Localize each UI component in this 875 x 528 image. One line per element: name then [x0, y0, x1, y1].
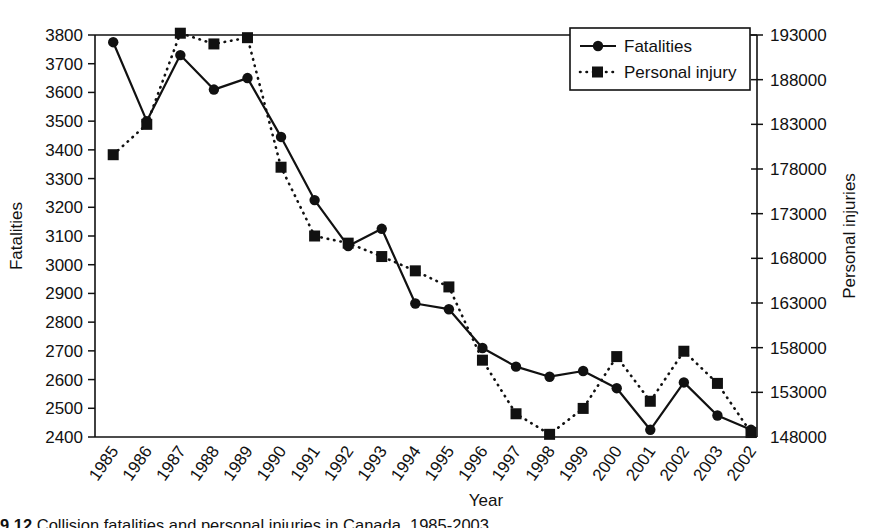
data-point	[376, 251, 387, 262]
x-tick-label: 2002	[656, 442, 693, 484]
data-point	[678, 346, 689, 357]
y-tick-label-left: 3500	[45, 112, 83, 131]
data-point	[443, 281, 454, 292]
y-tick-label-left: 3700	[45, 55, 83, 74]
x-tick-label: 2001	[622, 442, 659, 484]
y-tick-label-right: 168000	[770, 249, 827, 268]
y-tick-label-right: 158000	[770, 339, 827, 358]
y-tick-label-left: 3800	[45, 26, 83, 45]
data-point	[712, 378, 723, 389]
figure-container: 2400250026002700280029003000310032003300…	[0, 0, 875, 528]
data-point	[343, 238, 354, 249]
data-point	[611, 351, 622, 362]
x-tick-label: 1985	[85, 442, 122, 484]
data-point	[209, 84, 219, 94]
x-tick-label: 1987	[152, 442, 189, 484]
data-point	[477, 355, 488, 366]
x-tick-label: 2003	[689, 442, 726, 484]
y-tick-label-left: 2700	[45, 342, 83, 361]
data-point	[645, 425, 655, 435]
x-tick-label: 1986	[119, 442, 156, 484]
data-point	[578, 403, 589, 414]
y-tick-label-right: 183000	[770, 115, 827, 134]
legend-label-1: Personal injury	[624, 63, 737, 82]
y-tick-label-right: 173000	[770, 205, 827, 224]
data-point	[175, 28, 186, 39]
data-point	[544, 429, 555, 440]
series-line-fatalities	[113, 42, 751, 430]
y-tick-label-right: 188000	[770, 71, 827, 90]
caption-number: 9.12	[0, 516, 32, 528]
x-tick-label: 1992	[320, 442, 357, 484]
data-point	[377, 224, 387, 234]
x-tick-label: 1994	[387, 442, 424, 484]
data-point	[141, 119, 152, 130]
y-tick-label-right: 153000	[770, 383, 827, 402]
y-tick-label-left: 3300	[45, 170, 83, 189]
y-tick-label-right: 193000	[770, 26, 827, 45]
data-point	[242, 73, 252, 83]
data-point	[444, 304, 454, 314]
y-tick-label-right: 163000	[770, 294, 827, 313]
caption-text: Collision fatalities and personal injuri…	[37, 516, 489, 528]
x-axis-title: Year	[469, 491, 504, 510]
data-point	[511, 408, 522, 419]
data-point	[679, 377, 689, 387]
legend-marker-1	[592, 67, 603, 78]
series-line-personal-injury	[113, 33, 751, 434]
x-tick-label: 2002	[723, 442, 760, 484]
data-point	[276, 162, 287, 173]
y-tick-label-left: 2800	[45, 313, 83, 332]
x-tick-label: 1991	[287, 442, 324, 484]
y-tick-label-left: 3400	[45, 141, 83, 160]
legend-label-0: Fatalities	[624, 37, 692, 56]
data-point	[108, 37, 118, 47]
y-tick-label-left: 2500	[45, 399, 83, 418]
data-point	[242, 32, 253, 43]
x-tick-label: 1995	[421, 442, 458, 484]
data-point	[175, 50, 185, 60]
data-point	[645, 396, 656, 407]
data-point	[309, 195, 319, 205]
y-tick-label-left: 3100	[45, 227, 83, 246]
data-point	[746, 427, 757, 438]
legend-marker-0	[593, 41, 603, 51]
y-tick-label-left: 2400	[45, 428, 83, 447]
figure-caption: 9.12 Collision fatalities and personal i…	[0, 516, 875, 528]
data-point	[578, 366, 588, 376]
data-point	[511, 361, 521, 371]
y-axis-title-right: Personal injuries	[840, 173, 859, 299]
data-point	[612, 383, 622, 393]
x-tick-label: 1998	[522, 442, 559, 484]
line-chart: 2400250026002700280029003000310032003300…	[0, 0, 875, 528]
y-tick-label-left: 3600	[45, 83, 83, 102]
x-tick-label: 2000	[589, 442, 626, 484]
data-point	[208, 38, 219, 49]
y-tick-label-right: 178000	[770, 160, 827, 179]
y-tick-label-right: 148000	[770, 428, 827, 447]
x-tick-label: 1996	[454, 442, 491, 484]
x-tick-label: 1993	[354, 442, 391, 484]
data-point	[544, 372, 554, 382]
y-tick-label-left: 3000	[45, 256, 83, 275]
x-tick-label: 1988	[186, 442, 223, 484]
x-tick-label: 1997	[488, 442, 525, 484]
data-point	[276, 132, 286, 142]
x-tick-label: 1989	[219, 442, 256, 484]
x-tick-label: 1999	[555, 442, 592, 484]
y-tick-label-left: 3200	[45, 198, 83, 217]
data-point	[410, 298, 420, 308]
y-tick-label-left: 2600	[45, 371, 83, 390]
data-point	[410, 265, 421, 276]
x-tick-label: 1990	[253, 442, 290, 484]
y-axis-title-left: Fatalities	[7, 202, 26, 270]
data-point	[108, 149, 119, 160]
y-tick-label-left: 2900	[45, 284, 83, 303]
data-point	[712, 410, 722, 420]
data-point	[309, 231, 320, 242]
